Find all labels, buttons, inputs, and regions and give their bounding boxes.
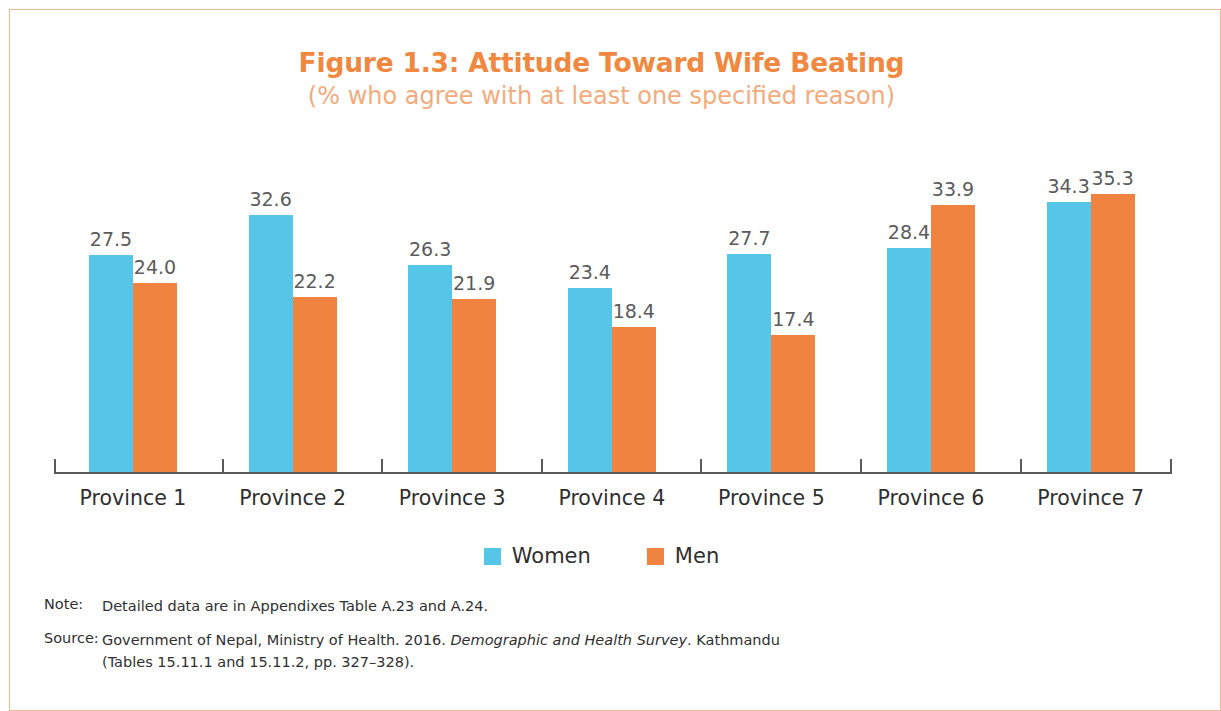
axis-tick [1020, 459, 1022, 474]
bar-men [612, 327, 656, 472]
chart-legend: Women Men [0, 544, 1203, 568]
bar-men [931, 205, 975, 472]
bar-value-label: 27.7 [717, 227, 781, 249]
bar-value-label: 26.3 [398, 238, 462, 260]
axis-tick [54, 459, 56, 474]
bar-men [452, 299, 496, 472]
source-publication-title: Demographic and Health Survey [450, 632, 687, 648]
bar-value-label: 24.0 [123, 256, 187, 278]
category-label-5: Province 5 [687, 486, 855, 510]
axis-tick [222, 459, 224, 474]
axis-tick [1170, 459, 1172, 474]
legend-item-women: Women [484, 544, 591, 568]
note-text: Detailed data are in Appendixes Table A.… [102, 596, 1144, 618]
axis-tick [700, 459, 702, 474]
axis-tick [541, 459, 543, 474]
bar-value-label: 35.3 [1081, 167, 1145, 189]
bar-women [408, 265, 452, 472]
legend-label-men: Men [675, 544, 719, 568]
women-swatch-icon [484, 548, 501, 565]
category-label-6: Province 6 [847, 486, 1015, 510]
footnotes: Note: Detailed data are in Appendixes Ta… [44, 596, 1144, 685]
bar-value-label: 17.4 [761, 308, 825, 330]
bar-men [771, 335, 815, 472]
category-label-4: Province 4 [528, 486, 696, 510]
bar-value-label: 18.4 [602, 300, 666, 322]
bar-value-label: 33.9 [921, 178, 985, 200]
bar-value-label: 23.4 [558, 261, 622, 283]
bar-women [249, 215, 293, 472]
source-row: Source: Government of Nepal, Ministry of… [44, 630, 1144, 674]
bar-women [887, 248, 931, 472]
source-text: Government of Nepal, Ministry of Health.… [102, 630, 1144, 674]
bar-value-label: 22.2 [283, 270, 347, 292]
bar-men [1091, 194, 1135, 472]
axis-tick [381, 459, 383, 474]
legend-label-women: Women [512, 544, 591, 568]
men-swatch-icon [647, 548, 664, 565]
category-label-2: Province 2 [209, 486, 377, 510]
note-key: Note: [44, 596, 102, 612]
source-text-part1: Government of Nepal, Ministry of Health.… [102, 632, 450, 648]
legend-item-men: Men [647, 544, 719, 568]
axis-tick [860, 459, 862, 474]
bar-women [89, 255, 133, 472]
category-label-1: Province 1 [49, 486, 217, 510]
bar-women [1047, 202, 1091, 472]
category-label-3: Province 3 [368, 486, 536, 510]
bar-value-label: 27.5 [79, 228, 143, 250]
bar-value-label: 21.9 [442, 272, 506, 294]
bar-men [293, 297, 337, 472]
bar-women [727, 254, 771, 472]
source-text-line2: (Tables 15.11.1 and 15.11.2, pp. 327–328… [102, 654, 414, 670]
bar-value-label: 32.6 [239, 188, 303, 210]
note-row: Note: Detailed data are in Appendixes Ta… [44, 596, 1144, 618]
bar-men [133, 283, 177, 472]
source-key: Source: [44, 630, 102, 646]
category-label-7: Province 7 [1007, 486, 1175, 510]
source-text-part2: . Kathmandu [687, 632, 780, 648]
